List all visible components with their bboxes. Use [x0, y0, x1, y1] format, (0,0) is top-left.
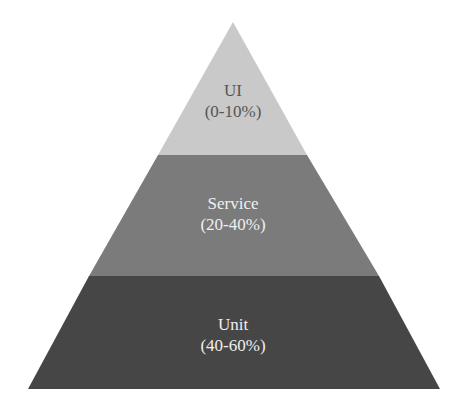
layer-label-unit: Unit (40-60%) [133, 314, 333, 356]
layer-name: Unit [133, 314, 333, 335]
layer-label-ui: UI (0-10%) [133, 80, 333, 122]
layer-label-service: Service (20-40%) [133, 193, 333, 235]
layer-range: (40-60%) [133, 335, 333, 356]
layer-range: (0-10%) [133, 101, 333, 122]
layer-range: (20-40%) [133, 214, 333, 235]
layer-name: Service [133, 193, 333, 214]
layer-name: UI [133, 80, 333, 101]
